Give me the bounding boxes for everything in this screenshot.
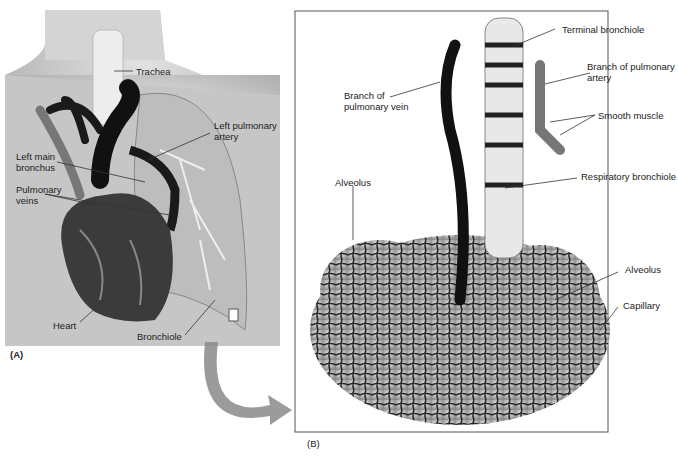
- label-terminal-bronchiole: Terminal bronchiole: [562, 24, 644, 35]
- label-branch-pulmonary-artery: Branch of pulmonary artery: [587, 61, 675, 83]
- diagram-canvas: [0, 0, 678, 456]
- panel-b-label: (B): [307, 438, 320, 449]
- label-branch-pulmonary-vein: Branch of pulmonary vein: [344, 90, 408, 112]
- label-trachea: Trachea: [136, 66, 171, 77]
- label-left-main-bronchus: Left main bronchus: [16, 151, 55, 173]
- label-smooth-muscle: Smooth muscle: [598, 110, 663, 121]
- terminal-bronchiole-icon: [485, 18, 523, 258]
- label-bronchiole: Bronchiole: [137, 331, 182, 342]
- label-alveolus-left: Alveolus: [335, 177, 371, 188]
- label-left-pulmonary-artery: Left pulmonary artery: [214, 120, 277, 142]
- label-alveolus-right: Alveolus: [625, 264, 661, 275]
- label-respiratory-bronchiole: Respiratory bronchiole: [581, 171, 676, 182]
- inset-marker-icon: [229, 309, 238, 321]
- magnify-arrow-icon: [204, 342, 292, 425]
- label-capillary: Capillary: [623, 300, 660, 311]
- panel-a-label: (A): [10, 349, 23, 360]
- label-heart: Heart: [53, 320, 76, 331]
- label-pulmonary-veins: Pulmonary veins: [16, 184, 61, 206]
